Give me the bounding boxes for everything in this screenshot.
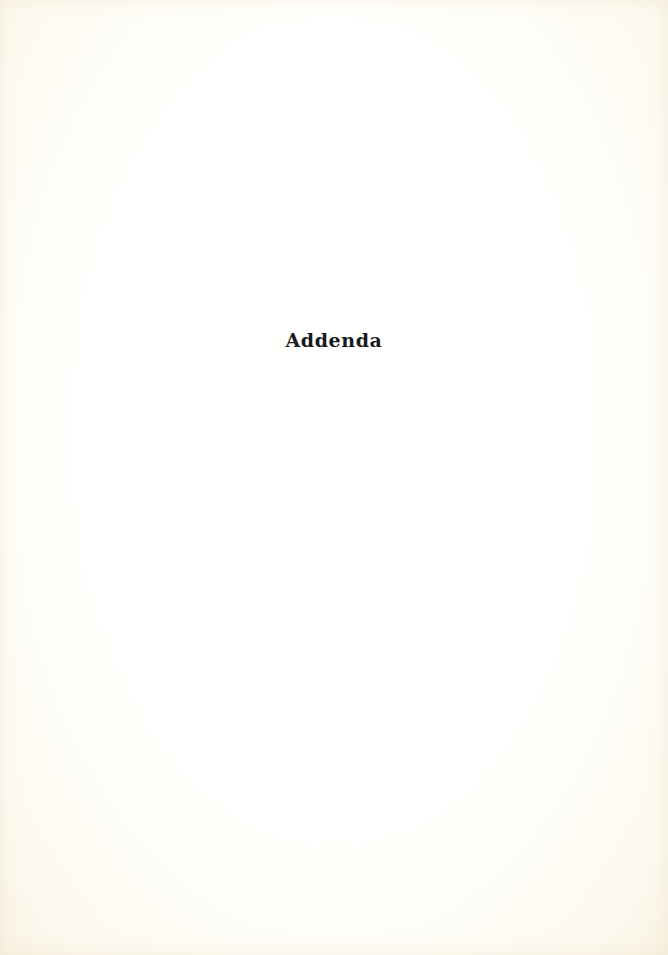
document-page: Addenda <box>0 0 668 955</box>
section-title: Addenda <box>0 326 668 354</box>
